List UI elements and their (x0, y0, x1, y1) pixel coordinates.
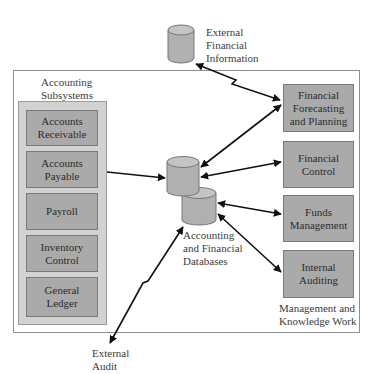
funds-management-box: Funds Management (283, 195, 354, 242)
payroll-box: Payroll (26, 193, 98, 230)
financial-control-box: Financial Control (283, 141, 354, 188)
external-financial-info-database-icon (168, 25, 194, 63)
general-ledger-box: General Ledger (26, 277, 98, 317)
accounting-subsystems-heading: Accounting Subsystems (41, 76, 93, 102)
inventory-control-box: Inventory Control (26, 235, 98, 272)
accounts-payable-box: Accounts Payable (26, 151, 98, 188)
external-financial-info-label: External Financial Information (206, 26, 259, 65)
internal-auditing-box: Internal Auditing (283, 250, 354, 298)
external-audit-label: External Audit (92, 347, 129, 373)
management-knowledge-work-heading: Management and Knowledge Work (279, 302, 356, 328)
databases-label: Accounting and Financial Databases (183, 229, 243, 268)
financial-forecasting-box: Financial Forecasting and Planning (283, 84, 354, 132)
accounts-receivable-box: Accounts Receivable (26, 110, 98, 146)
